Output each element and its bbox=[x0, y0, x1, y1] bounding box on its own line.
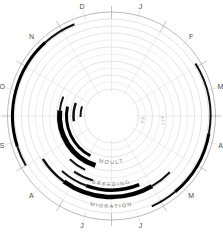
month-label-october: O bbox=[0, 83, 5, 90]
data-arc bbox=[43, 159, 64, 182]
tick-minor bbox=[208, 142, 218, 145]
tick-major bbox=[160, 21, 167, 32]
tick-minor bbox=[5, 88, 15, 91]
month-label-april: A bbox=[218, 142, 223, 149]
ring-label-pb: PB bbox=[140, 115, 146, 123]
month-label-june: J bbox=[139, 222, 143, 229]
month-label-september: S bbox=[0, 142, 5, 149]
tick-minor bbox=[137, 10, 140, 20]
month-label-february: F bbox=[189, 33, 194, 40]
annual-cycle-diagram: MIGRATIONBREEDINGMOULTPB1YE JFMAMJJASOND bbox=[0, 0, 223, 233]
month-label-may: M bbox=[188, 192, 194, 199]
ring-9 bbox=[85, 89, 139, 143]
data-arc bbox=[13, 42, 46, 146]
month-label-july: J bbox=[80, 222, 84, 229]
data-arc bbox=[60, 97, 64, 111]
tick-major bbox=[16, 165, 27, 172]
month-label-january: J bbox=[139, 3, 143, 10]
data-arc bbox=[152, 172, 170, 186]
tick-major bbox=[57, 200, 64, 211]
month-label-march: M bbox=[218, 83, 223, 90]
month-label-november: N bbox=[29, 33, 34, 40]
diagram-canvas: MIGRATIONBREEDINGMOULTPB1YE JFMAMJJASOND bbox=[0, 0, 223, 233]
tick-minor bbox=[34, 187, 41, 194]
ring-8 bbox=[78, 82, 146, 150]
ring-label-firstyear: 1YE bbox=[160, 114, 166, 125]
tick-minor bbox=[208, 88, 218, 91]
month-label-august: A bbox=[29, 192, 34, 199]
tick-minor bbox=[5, 142, 15, 145]
data-arc bbox=[73, 103, 75, 121]
data-arc bbox=[152, 192, 175, 207]
tick-minor bbox=[83, 10, 86, 20]
tick-minor bbox=[34, 38, 41, 45]
data-arc bbox=[81, 106, 83, 117]
month-label-december: D bbox=[80, 3, 85, 10]
